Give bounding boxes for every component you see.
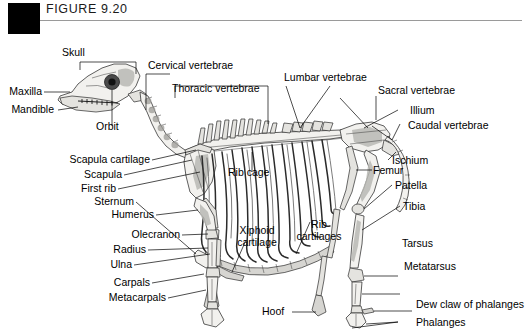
label-scapula-cartilage: Scapula cartilage: [0, 154, 150, 166]
label-cervical-vertebrae: Cervical vertebrae: [148, 60, 233, 72]
label-first-rib: First rib: [0, 183, 116, 195]
label-rib-cartilages: Rib cartilages: [288, 218, 350, 242]
label-dew-claw-of-phalanges: Dew claw of phalanges: [416, 299, 524, 311]
label-femur: Femur: [373, 165, 403, 177]
label-sacral-vertebrae: Sacral vertebrae: [378, 85, 455, 97]
dew-claw-bone: [362, 308, 374, 314]
label-rib-cage: Rib cage: [228, 167, 269, 179]
label-illium: Illium: [410, 105, 435, 117]
label-orbit: Orbit: [96, 121, 119, 133]
label-carpals: Carpals: [0, 277, 150, 289]
label-hoof: Hoof: [262, 306, 284, 318]
label-mandible: Mandible: [0, 104, 54, 116]
label-tibia: Tibia: [403, 201, 425, 213]
figure-canvas: FIGURE 9.20: [0, 0, 532, 333]
label-metatarsus: Metatarsus: [404, 261, 456, 273]
label-phalanges: Phalanges: [416, 317, 466, 329]
label-thoracic-vertebrae: Thoracic vertebrae: [172, 83, 260, 95]
label-caudal-vertebrae: Caudal vertebrae: [408, 120, 489, 132]
label-maxilla: Maxilla: [0, 86, 42, 98]
label-xiphoid-cartilage: Xiphoid cartilage: [226, 224, 288, 248]
label-humerus: Humerus: [0, 209, 154, 221]
skull-group: [58, 64, 146, 112]
label-metacarpals: Metacarpals: [0, 292, 166, 304]
carpals-bone: [206, 268, 220, 277]
patella-bone: [352, 204, 364, 214]
label-sternum: Sternum: [0, 196, 134, 208]
label-patella: Patella: [395, 180, 427, 192]
cervical-vertebrae-group: [140, 92, 188, 158]
label-skull: Skull: [62, 47, 85, 59]
label-tarsus: Tarsus: [402, 238, 433, 250]
tarsus-bone: [348, 268, 364, 282]
label-scapula: Scapula: [0, 169, 122, 181]
label-lumbar-vertebrae: Lumbar vertebrae: [284, 72, 367, 84]
label-olecranon: Olecranon: [0, 229, 180, 241]
label-ulna: Ulna: [0, 259, 132, 271]
scapula-group: [184, 144, 216, 198]
olecranon-bone: [206, 230, 218, 239]
label-radius: Radius: [0, 244, 146, 256]
